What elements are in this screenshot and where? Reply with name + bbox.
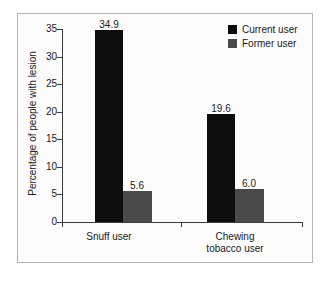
x-category-label-snuff: Snuff user [63,231,155,243]
y-tick-5: 5 [0,194,57,195]
bar-value-chewing-former: 6.0 [225,178,273,189]
bar-snuff-former-user [123,191,152,222]
y-tick-label-10: 10 [15,162,57,172]
y-tick-mark-25 [57,84,63,85]
bar-chewing-current-user [207,114,235,222]
bar-value-snuff-former: 5.6 [113,180,161,191]
y-tick-label-25: 25 [15,79,57,89]
x-category-label-chewing-line2: tobacco user [189,243,281,255]
y-tick-20: 20 [0,112,57,113]
y-tick-mark-30 [57,57,63,58]
chart-figure: Percentage of people with lesion 35 30 2… [0,0,330,282]
y-tick-label-15: 15 [15,134,57,144]
chart-legend: Current user Former user [228,24,298,52]
legend-swatch-current-user-icon [228,25,237,34]
y-tick-mark-35 [57,29,63,30]
y-tick-35: 35 [0,29,57,30]
x-category-label-chewing-line1: Chewing [189,231,281,243]
x-tick-end [302,222,303,227]
legend-swatch-former-user-icon [228,39,237,48]
legend-entry-current-user: Current user [228,24,298,35]
legend-label-current-user: Current user [242,25,298,35]
y-tick-label-0: 0 [15,217,57,227]
bar-value-chewing-current: 19.6 [197,103,245,114]
plot-area: Percentage of people with lesion 35 30 2… [0,0,330,282]
bar-value-snuff-current: 34.9 [85,19,133,30]
y-tick-label-20: 20 [15,107,57,117]
y-tick-label-30: 30 [15,52,57,62]
y-tick-30: 30 [0,57,57,58]
y-tick-mark-10 [57,167,63,168]
x-axis-line [62,222,303,223]
x-tick-separator [181,222,182,227]
y-tick-label-5: 5 [15,189,57,199]
y-tick-15: 15 [0,139,57,140]
bar-chewing-former-user [235,189,264,222]
y-tick-25: 25 [0,84,57,85]
y-tick-mark-15 [57,139,63,140]
legend-entry-former-user: Former user [228,38,298,49]
y-tick-label-35: 35 [15,24,57,34]
y-tick-mark-20 [57,112,63,113]
y-tick-mark-5 [57,194,63,195]
x-tick-start [62,222,63,227]
bar-snuff-current-user [95,30,123,222]
y-tick-0: 0 [0,222,57,223]
y-tick-10: 10 [0,167,57,168]
legend-label-former-user: Former user [242,39,296,49]
